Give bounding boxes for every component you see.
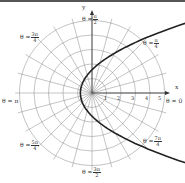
tick-4: 4 (145, 95, 148, 101)
angle-label-3pi-over-2: θ =3π2 (82, 167, 101, 178)
angle-label-pi-over-2: θ =π2 (82, 14, 98, 25)
angle-label-pi: θ = π (2, 98, 18, 104)
polar-grid (0, 0, 185, 183)
tick-5: 5 (158, 95, 161, 101)
tick-3: 3 (131, 95, 134, 101)
angle-label-pi-over-4: θ =π4 (143, 38, 159, 49)
x-axis-label: x (175, 84, 178, 90)
angle-label-5pi-over-4: θ =5π4 (20, 140, 39, 151)
y-axis-label: y (82, 4, 85, 10)
tick-1: 1 (104, 95, 107, 101)
angle-label-3pi-over-4: θ =3π4 (20, 32, 39, 43)
angle-label-zero: θ = 0 (166, 98, 182, 104)
angle-label-7pi-over-4: θ =7π4 (143, 136, 162, 147)
tick-2: 2 (117, 95, 120, 101)
x-axis-arrow-icon (165, 91, 170, 95)
